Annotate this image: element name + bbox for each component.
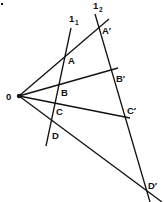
line-label-subscript-l1: 1 — [75, 19, 79, 26]
point-label-a-prime: A′ — [102, 25, 112, 36]
corner-mark — [1, 3, 3, 5]
geometry-diagram: 0 1112 ABCDA′B′C′D′ — [0, 0, 164, 202]
ray-OC — [19, 96, 130, 118]
ray-OB — [19, 68, 118, 96]
line-label-subscript-l2: 2 — [99, 6, 103, 13]
ray-OA — [19, 19, 109, 96]
point-label-d-prime: D′ — [148, 180, 158, 191]
rays-from-origin — [19, 19, 162, 202]
point-label-b: B — [61, 87, 68, 98]
point-label-c-prime: C′ — [127, 105, 137, 116]
point-label-a: A — [68, 55, 75, 66]
point-label-b-prime: B′ — [116, 73, 126, 84]
ray-OD — [19, 96, 162, 202]
line-l2 — [95, 14, 150, 202]
origin-label: 0 — [6, 91, 11, 102]
origin-point — [17, 94, 21, 98]
point-label-c: C — [56, 106, 63, 117]
point-label-d: D — [52, 130, 59, 141]
